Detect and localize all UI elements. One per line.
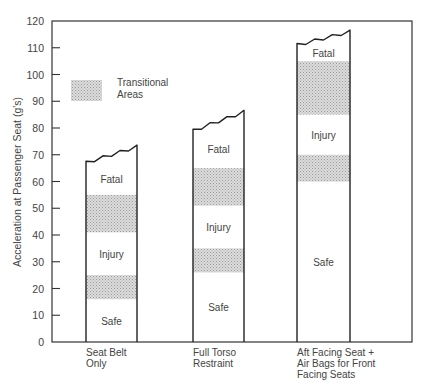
transitional-zone	[193, 248, 244, 272]
category-label: Full Torso	[193, 347, 237, 358]
transitional-zone	[86, 195, 137, 232]
y-tick-label: 110	[27, 42, 44, 54]
zone-label-safe: Safe	[208, 302, 229, 313]
y-tick-label: 60	[32, 176, 44, 188]
y-tick-label: 20	[32, 283, 44, 295]
legend-swatch	[71, 80, 102, 101]
y-tick-label: 40	[32, 229, 44, 241]
zone-label-fatal: Fatal	[207, 144, 229, 155]
category-label: Restraint	[193, 358, 233, 369]
category-label: Only	[86, 358, 107, 369]
category-label: Facing Seats	[297, 369, 355, 380]
y-tick-label: 10	[32, 309, 44, 321]
bar-2: SafeInjuryFatal	[193, 110, 244, 342]
category-label: Aft Facing Seat +	[297, 347, 374, 358]
acceleration-chart: 0102030405060708090100110120 Acceleratio…	[0, 0, 426, 392]
category-label: Seat Belt	[86, 347, 127, 358]
legend-label-line2: Areas	[117, 89, 143, 100]
zone-label-injury: Injury	[311, 130, 335, 141]
legend: Transitional Areas	[71, 77, 168, 101]
bar-1: SafeInjuryFatal	[86, 145, 137, 342]
y-tick-label: 90	[32, 95, 44, 107]
y-tick-label: 80	[32, 122, 44, 134]
transitional-zone	[86, 275, 137, 299]
legend-label-line1: Transitional	[117, 77, 168, 88]
y-tick-label: 70	[32, 149, 44, 161]
transitional-zone	[297, 155, 350, 182]
y-tick-label: 50	[32, 202, 44, 214]
y-axis: 0102030405060708090100110120	[26, 15, 60, 348]
y-tick-label: 0	[38, 336, 44, 348]
transitional-zone	[297, 61, 350, 115]
zone-label-safe: Safe	[101, 316, 122, 327]
category-labels: Seat BeltOnlyFull TorsoRestraintAft Faci…	[86, 347, 376, 380]
y-tick-label: 30	[32, 256, 44, 268]
y-tick-label: 120	[26, 15, 44, 27]
zone-label-injury: Injury	[206, 222, 230, 233]
category-label: Air Bags for Front	[297, 358, 376, 369]
transitional-zone	[193, 168, 244, 205]
y-tick-label: 100	[26, 69, 44, 81]
y-axis-title: Acceleration at Passenger Seat (g's)	[11, 97, 23, 267]
zone-label-injury: Injury	[99, 249, 123, 260]
bar-3: SafeInjuryFatal	[297, 30, 350, 342]
zone-label-fatal: Fatal	[100, 174, 122, 185]
zone-label-fatal: Fatal	[312, 48, 334, 59]
zone-label-safe: Safe	[313, 257, 334, 268]
